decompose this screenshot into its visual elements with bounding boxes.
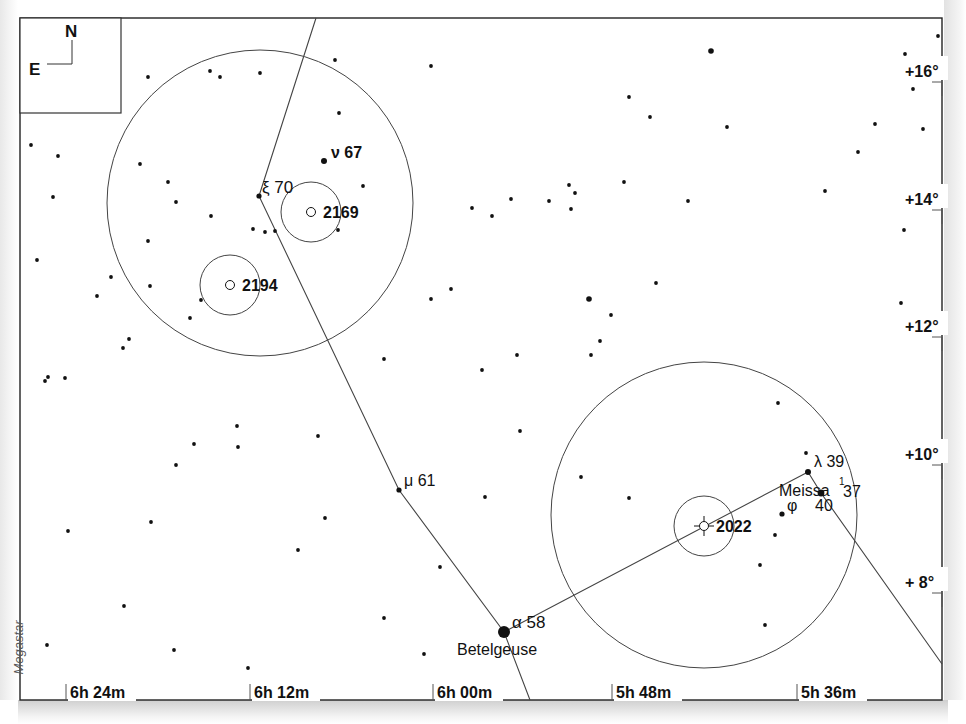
field-star	[209, 214, 213, 218]
field-star	[336, 228, 340, 232]
field-star	[654, 281, 658, 285]
field-star	[449, 287, 453, 291]
field-star	[218, 75, 222, 79]
field-star	[902, 228, 906, 232]
named-star-58	[498, 626, 510, 638]
field-star	[323, 516, 327, 520]
field-star	[316, 434, 320, 438]
planetary-nebula-icon	[700, 522, 709, 531]
star-label-phi-40: 40	[815, 497, 833, 514]
field-star	[490, 214, 494, 218]
field-star	[686, 199, 690, 203]
named-star-40	[779, 511, 784, 516]
field-star	[622, 180, 626, 184]
field-star	[121, 346, 125, 350]
dso-label-2169: 2169	[323, 204, 359, 221]
field-star	[773, 533, 777, 537]
field-star	[589, 353, 593, 357]
field-star	[567, 183, 571, 187]
field-star	[438, 565, 442, 569]
field-star	[569, 207, 573, 211]
field-star	[95, 294, 99, 298]
named-star-67	[321, 158, 327, 164]
field-star	[509, 197, 513, 201]
field-star	[921, 127, 925, 131]
chart-frame	[20, 18, 942, 700]
field-star	[166, 180, 170, 184]
field-star	[29, 143, 33, 147]
field-star	[172, 648, 176, 652]
field-star	[263, 230, 267, 234]
dso-label-2194: 2194	[242, 277, 278, 294]
field-star	[763, 623, 767, 627]
field-star	[235, 424, 239, 428]
field-star	[598, 339, 602, 343]
field-star	[515, 353, 519, 357]
field-star	[627, 95, 631, 99]
star-label-nu-67: ν 67	[331, 144, 362, 161]
field-star	[174, 463, 178, 467]
field-star	[148, 284, 152, 288]
compass-east-label: E	[29, 60, 40, 79]
field-star	[199, 298, 203, 302]
field-star	[122, 604, 126, 608]
field-star	[146, 239, 150, 243]
field-star	[804, 451, 808, 455]
field-star-bright	[586, 296, 592, 302]
field-star	[382, 616, 386, 620]
field-star	[236, 445, 240, 449]
field-star	[911, 87, 915, 91]
star-name-betelgeuse: Betelgeuse	[457, 641, 537, 658]
ra-tick-label: 6h 00m	[437, 684, 492, 701]
field-star	[627, 496, 631, 500]
ra-tick-label: 5h 48m	[616, 684, 671, 701]
field-star	[382, 357, 386, 361]
dec-tick-label: +14°	[905, 191, 939, 208]
field-star	[149, 520, 153, 524]
field-star	[296, 548, 300, 552]
star-chart: N E ν 67 ξ 70 μ 61 α 58 Betelgeuse λ 39 …	[0, 0, 966, 724]
field-star	[873, 122, 877, 126]
star-label-alpha-58: α 58	[512, 613, 545, 632]
field-star	[109, 275, 113, 279]
field-star	[483, 495, 487, 499]
field-star	[46, 375, 50, 379]
field-star	[63, 376, 67, 380]
field-star	[758, 563, 762, 567]
compass: N E	[20, 18, 121, 113]
field-star	[66, 529, 70, 533]
field-star	[776, 401, 780, 405]
star-label-mu-61: μ 61	[404, 472, 436, 489]
field-star	[138, 162, 142, 166]
compass-north-label: N	[65, 22, 77, 41]
field-star	[518, 429, 522, 433]
field-star	[856, 150, 860, 154]
star-label-xi-70: ξ 70	[262, 178, 293, 197]
field-star	[903, 52, 907, 56]
field-star	[609, 313, 613, 317]
field-star	[258, 71, 262, 75]
field-star	[146, 75, 150, 79]
ra-tick-label: 5h 36m	[801, 684, 856, 701]
field-star	[573, 191, 577, 195]
field-star	[251, 227, 255, 231]
field-star	[547, 199, 551, 203]
star-label-phi1-37: 37	[843, 483, 861, 500]
credit-label: Megastar	[11, 608, 26, 688]
field-star	[56, 154, 60, 158]
field-star	[246, 666, 250, 670]
field-star-bright	[708, 48, 714, 54]
field-star	[337, 111, 341, 115]
dec-tick-label: + 8°	[905, 574, 934, 591]
field-star	[188, 316, 192, 320]
named-star-61	[396, 487, 401, 492]
field-star	[333, 58, 337, 62]
field-star	[43, 379, 47, 383]
field-star	[51, 195, 55, 199]
named-star-70	[256, 193, 261, 198]
star-label-lambda-39: λ 39	[814, 453, 844, 470]
field-star	[429, 64, 433, 68]
field-star	[127, 337, 131, 341]
dso-label-2022: 2022	[716, 518, 752, 535]
star-label-phi: φ	[787, 497, 797, 514]
